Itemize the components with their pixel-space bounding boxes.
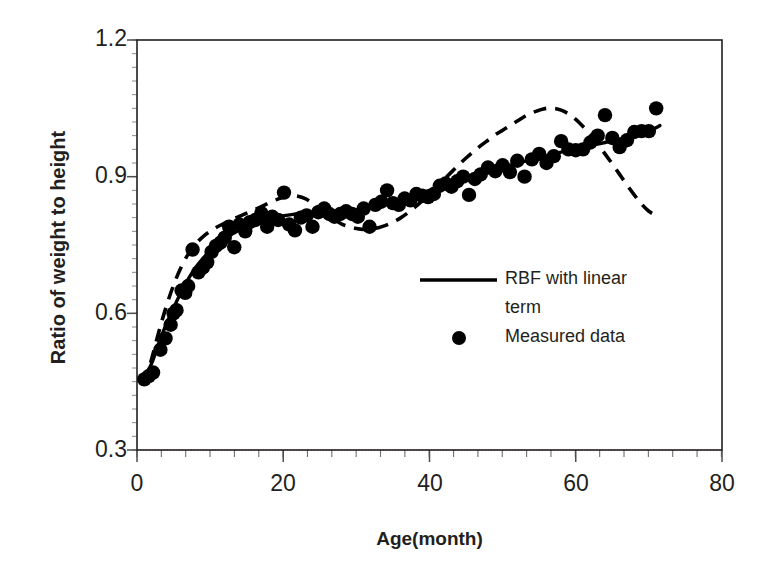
legend-dot-swatch — [452, 331, 466, 345]
chart-figure: Ratio of weight to height Age(month) 1.2… — [0, 0, 769, 588]
chart-plot-area — [0, 0, 769, 588]
measured-data-points — [137, 101, 663, 386]
rbf-with-linear-term-curve — [144, 126, 660, 378]
